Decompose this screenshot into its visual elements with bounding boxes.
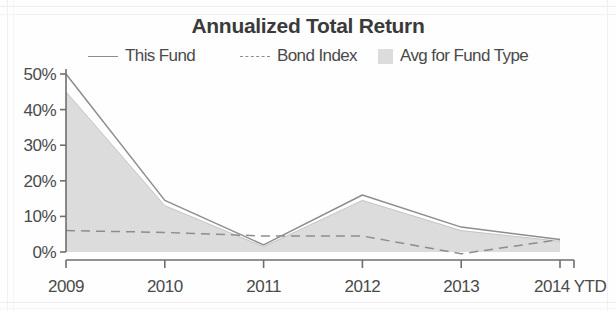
chart-svg: 0%10%20%30%40%50% 2009201020112012201320… (0, 0, 616, 311)
y-axis-tick-label: 20% (23, 172, 56, 191)
x-axis-tick-label: 2010 (147, 277, 183, 296)
x-axis-tick-labels: 200920102011201220132014 YTD (48, 277, 606, 296)
y-axis-tick-labels: 0%10%20%30%40%50% (23, 65, 56, 262)
x-axis-tick-label: 2014 YTD (534, 277, 606, 296)
y-axis-tick-label: 10% (23, 207, 56, 226)
y-axis-tick-label: 0% (32, 243, 56, 262)
y-axis-tick-label: 30% (23, 136, 56, 155)
chart-page: Annualized Total Return This Fund Bond I… (0, 0, 616, 311)
series-area-avg-for-fund-type (66, 92, 560, 252)
x-axis-tick-label: 2012 (344, 277, 380, 296)
x-axis-tick-label: 2009 (48, 277, 84, 296)
plot-area: 0%10%20%30%40%50% 2009201020112012201320… (0, 0, 616, 311)
x-axis-tick-label: 2013 (443, 277, 479, 296)
y-axis-tick-label: 50% (23, 65, 56, 84)
y-axis-tick-label: 40% (23, 101, 56, 120)
x-axis-tick-label: 2011 (246, 277, 281, 296)
